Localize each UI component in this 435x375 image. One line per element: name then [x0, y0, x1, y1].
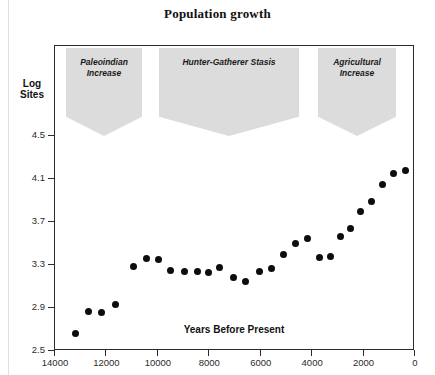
data-point — [357, 208, 364, 215]
scatter-plot: Paleoindian Increase Hunter-Gatherer Sta… — [54, 45, 414, 350]
annotation-banner-hunter-gatherer: Hunter-Gatherer Stasis — [159, 48, 299, 136]
data-point — [72, 330, 79, 337]
y-axis-tick: 4.5 — [48, 135, 54, 136]
data-point — [205, 269, 212, 276]
x-axis-tick: 8000 — [208, 350, 209, 356]
y-axis-tick-label: 2.9 — [32, 301, 45, 312]
data-point — [216, 264, 223, 271]
data-point — [292, 240, 299, 247]
data-point — [230, 274, 237, 281]
annotation-banner-hunter-gatherer-line1: Hunter-Gatherer Stasis — [182, 57, 275, 67]
x-axis-tick-label: 4000 — [302, 357, 323, 368]
y-axis-tick-label: 3.7 — [32, 215, 45, 226]
y-axis-tick: 2.9 — [48, 307, 54, 308]
data-point — [379, 181, 386, 188]
x-axis-tick: 4000 — [311, 350, 312, 356]
data-point — [130, 263, 137, 270]
annotation-banner-agricultural-line2: Increase — [340, 68, 375, 78]
x-axis-tick-label: 6000 — [250, 357, 271, 368]
data-point — [167, 267, 174, 274]
data-point — [390, 170, 397, 177]
data-point — [280, 251, 287, 258]
y-axis-tick-label: 3.3 — [32, 258, 45, 269]
x-axis-tick: 12000 — [105, 350, 106, 356]
data-point — [155, 256, 162, 263]
data-point — [98, 309, 105, 316]
y-axis-title: Log Sites — [14, 78, 50, 100]
data-point — [316, 254, 323, 261]
data-point — [85, 308, 92, 315]
y-axis-tick: 4.1 — [48, 178, 54, 179]
data-point — [256, 268, 263, 275]
x-axis-tick: 0 — [414, 350, 415, 356]
data-point — [368, 198, 375, 205]
x-axis-tick: 6000 — [260, 350, 261, 356]
annotation-banner-paleoindian-line1: Paleoindian — [80, 57, 128, 67]
annotation-banner-paleoindian: Paleoindian Increase — [66, 48, 142, 136]
y-axis-tick: 3.3 — [48, 264, 54, 265]
x-axis-tick-label: 8000 — [199, 357, 220, 368]
y-axis-tick-label: 4.1 — [32, 172, 45, 183]
x-axis-tick-label: 10000 — [145, 357, 171, 368]
x-axis-tick: 14000 — [54, 350, 55, 356]
annotation-banner-paleoindian-line2: Increase — [87, 68, 122, 78]
y-axis-tick: 3.7 — [48, 221, 54, 222]
annotation-banner-agricultural-line1: Agricultural — [333, 57, 381, 67]
x-axis-tick: 2000 — [363, 350, 364, 356]
data-point — [181, 268, 188, 275]
annotation-banner-agricultural: Agricultural Increase — [318, 48, 396, 136]
data-point — [268, 265, 275, 272]
x-axis-tick-label: 0 — [412, 357, 417, 368]
x-axis-title: Years Before Present — [54, 324, 414, 335]
x-axis-tick-label: 2000 — [353, 357, 374, 368]
data-point — [143, 255, 150, 262]
data-point — [327, 253, 334, 260]
y-axis-tick-label: 2.5 — [32, 344, 45, 355]
y-axis-tick-label: 4.5 — [32, 129, 45, 140]
x-axis-tick: 10000 — [157, 350, 158, 356]
x-axis-tick-label: 14000 — [42, 357, 68, 368]
data-point — [347, 225, 354, 232]
page-edge-line — [8, 0, 9, 375]
data-point — [304, 235, 311, 242]
data-point — [194, 268, 201, 275]
x-axis-tick-label: 12000 — [93, 357, 119, 368]
y-axis-title-line1: Log — [23, 78, 41, 89]
data-point — [242, 278, 249, 285]
data-point — [402, 167, 409, 174]
data-point — [112, 301, 119, 308]
y-axis-title-line2: Sites — [20, 89, 44, 100]
page-title: Population growth — [0, 6, 435, 22]
data-point — [337, 233, 344, 240]
